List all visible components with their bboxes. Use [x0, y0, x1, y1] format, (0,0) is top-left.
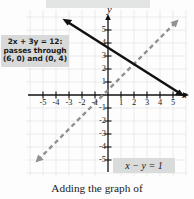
x-tick-label: 2 — [127, 98, 141, 107]
callout-equation-info: 2x + 3y = 12: passes through (6, 0) and … — [1, 35, 69, 67]
x-tick-label: -5 — [36, 98, 50, 107]
y-tick-label: 2 — [95, 64, 106, 73]
graph-figure: 2x + 3y = 12: passes through (6, 0) and … — [0, 0, 194, 199]
y-tick-label: -5 — [92, 155, 106, 164]
y-tick-label: 3 — [95, 51, 106, 60]
callout-top-partial — [46, 0, 150, 8]
x-tick-label: 1 — [114, 98, 128, 107]
x-tick-label: 5 — [166, 98, 180, 107]
y-axis-label: y — [107, 4, 112, 15]
y-tick-label: 1 — [95, 77, 106, 86]
figure-caption: Adding the graph of — [0, 182, 194, 194]
y-tick-label: 5 — [95, 25, 106, 34]
callout-line-3: (6, 0) and (0, 4) — [2, 55, 68, 64]
y-tick-label: -2 — [92, 116, 106, 125]
y-tick-label: 4 — [95, 38, 106, 47]
x-tick-label: 4 — [153, 98, 167, 107]
x-tick-label: 3 — [140, 98, 154, 107]
x-tick-label: -4 — [49, 98, 63, 107]
y-tick-label: -3 — [92, 129, 106, 138]
y-tick-label: -4 — [92, 142, 106, 151]
line-equation-label: x − y = 1 — [113, 158, 175, 173]
x-axis-label: x — [182, 89, 187, 100]
y-tick-label: -1 — [92, 103, 106, 112]
x-tick-label: -3 — [62, 98, 76, 107]
x-tick-label: -2 — [75, 98, 89, 107]
